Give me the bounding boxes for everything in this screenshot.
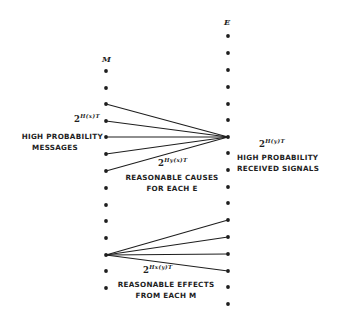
m-column-dot [104,86,108,90]
effect-line [106,220,228,255]
e-column-dot [226,269,230,273]
effect-line [106,237,228,255]
e-column-dot [226,302,230,306]
e-column-dot [226,185,230,189]
m-column-dot [104,286,108,290]
m-column-dot [104,135,108,139]
causes-label-line1: REASONABLE CAUSES [118,173,226,182]
m-column-dot [104,102,108,106]
e-column-dot [226,102,230,106]
m-column-dot [104,152,108,156]
e-column-dot [226,85,230,89]
e-column-dot [226,151,230,155]
m-column-dot [104,236,108,240]
m-column-dot [104,119,108,123]
e-column-dot [226,51,230,55]
m-column-dot [104,269,108,273]
cause-line [106,121,228,137]
signals-label-line2: RECEIVED SIGNALS [237,164,319,173]
m-column-dot [104,169,108,173]
cause-line [106,104,228,137]
effect-line [106,254,228,255]
m-column-dot [104,69,108,73]
signals-count: 2H(y)T [259,137,285,149]
e-column-dot [226,218,230,222]
channel-diagram: M E 2H(x)T HIGH PROBABILITY MESSAGES 2H(… [0,0,339,320]
m-column-label: M [102,55,111,64]
cause-line [106,137,228,154]
e-column-dot [226,235,230,239]
signals-label-line1: HIGH PROBABILITY [237,153,318,162]
messages-count: 2H(x)T [60,112,100,124]
effects-count: 2Hx(y)T [143,263,173,275]
effects-label-line1: REASONABLE EFFECTS [110,280,222,289]
e-column-dot [226,201,230,205]
m-column-dot [104,203,108,207]
e-column-dot [226,285,230,289]
causes-count: 2Hy(x)T [158,156,188,168]
messages-label-line1: HIGH PROBABILITY [0,132,103,141]
e-column-dot [226,135,230,139]
e-column-label: E [224,18,230,27]
m-column-dot [104,186,108,190]
m-column-dot [104,219,108,223]
causes-label-line2: FOR EACH E [118,184,226,193]
e-column-dot [226,118,230,122]
m-column-dot [104,253,108,257]
e-column-dot [226,68,230,72]
effects-label-line2: FROM EACH M [110,291,222,300]
e-column-dot [226,252,230,256]
e-column-dot [226,168,230,172]
messages-label-line2: MESSAGES [20,143,90,152]
e-column-dot [226,34,230,38]
